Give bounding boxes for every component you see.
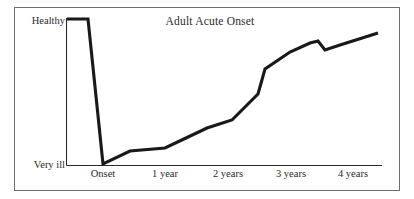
chart-figure: Adult Acute Onset Healthy Very ill Onset…	[0, 0, 414, 199]
chart-title: Adult Acute Onset	[166, 15, 255, 27]
x-tick-label-onset: Onset	[91, 168, 116, 179]
y-axis-label-very-ill: Very ill	[34, 159, 65, 170]
x-tick-label-2-years: 2 years	[213, 168, 243, 179]
health-trajectory-line	[67, 19, 378, 164]
y-axis-label-healthy: Healthy	[32, 15, 65, 26]
x-tick-label-4-years: 4 years	[338, 168, 368, 179]
x-tick-label-3-years: 3 years	[276, 168, 306, 179]
x-tick-label-1-year: 1 year	[152, 168, 178, 179]
